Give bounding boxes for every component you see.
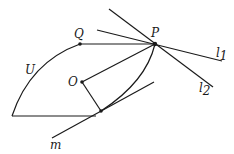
label-l2: l2 xyxy=(199,81,210,98)
label-p: P xyxy=(150,26,160,40)
line-l2 xyxy=(109,9,213,87)
point-o xyxy=(80,80,84,84)
geometry-diagram: P Q O U m l1 l2 xyxy=(0,0,234,154)
point-p xyxy=(153,42,157,46)
point-q xyxy=(78,42,82,46)
segment-op xyxy=(82,44,155,82)
line-m xyxy=(52,82,154,138)
line-l1 xyxy=(97,30,222,61)
segment-ot xyxy=(82,82,101,111)
label-u: U xyxy=(25,63,36,77)
point-tangent xyxy=(99,109,103,113)
label-q: Q xyxy=(74,27,84,41)
label-m: m xyxy=(50,138,61,152)
label-o: O xyxy=(68,75,78,89)
arc-p-to-tangent xyxy=(101,44,155,111)
